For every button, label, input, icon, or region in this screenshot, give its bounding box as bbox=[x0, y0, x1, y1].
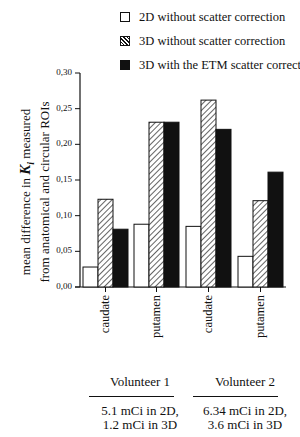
group-divider-2 bbox=[193, 396, 278, 397]
x-category-label: caudate bbox=[201, 295, 216, 357]
bar-black bbox=[216, 129, 231, 287]
x-category-label: putamen bbox=[149, 295, 164, 357]
group-label-volunteer-2: Volunteer 2 bbox=[185, 374, 300, 390]
group-divider-1 bbox=[89, 396, 174, 397]
bar-white bbox=[238, 256, 253, 287]
bar-white bbox=[186, 226, 201, 287]
bar-hatched bbox=[201, 100, 216, 287]
bar-black bbox=[164, 122, 179, 287]
bar-hatched bbox=[98, 199, 113, 287]
group-dose-volunteer-2: 6.34 mCi in 2D, 3.6 mCi in 3D bbox=[185, 404, 300, 432]
bar-black bbox=[113, 229, 128, 287]
plot-area bbox=[0, 0, 300, 437]
x-category-label: putamen bbox=[253, 295, 268, 357]
bar-black bbox=[268, 172, 283, 287]
group-dose-volunteer-1: 5.1 mCi in 2D, 1.2 mCi in 3D bbox=[80, 404, 200, 432]
bar-hatched bbox=[149, 122, 164, 287]
x-category-label: caudate bbox=[98, 295, 113, 357]
bar-white bbox=[83, 267, 98, 287]
bars bbox=[83, 100, 283, 287]
bar-white bbox=[134, 224, 149, 287]
bar-hatched bbox=[253, 201, 268, 287]
group-label-volunteer-1: Volunteer 1 bbox=[80, 374, 200, 390]
